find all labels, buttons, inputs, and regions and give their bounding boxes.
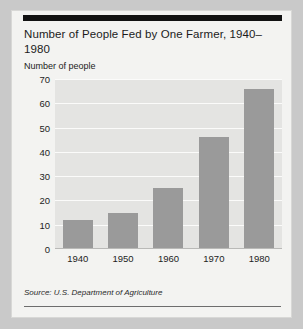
bar-1940[interactable]	[63, 220, 93, 249]
bottom-rule-divider	[24, 306, 281, 307]
x-axis-tick: 1970	[191, 253, 236, 264]
bar-slot	[237, 79, 282, 249]
chart-plot-wrapper: 70 60 50 40 30 20 10 0	[24, 79, 282, 275]
bar-1970[interactable]	[199, 137, 229, 249]
figure-card: Number of People Fed by One Farmer, 1940…	[11, 10, 292, 318]
bar-series	[55, 79, 282, 249]
x-axis-tick: 1980	[237, 253, 282, 264]
bar-1980[interactable]	[244, 89, 274, 249]
y-axis-tick: 60	[39, 98, 50, 109]
source-note: Source: U.S. Department of Agriculture	[24, 288, 162, 297]
bar-slot	[100, 79, 145, 249]
x-axis-baseline	[55, 248, 282, 249]
x-axis-tick-labels: 1940 1950 1960 1970 1980	[55, 253, 282, 264]
x-axis-tick: 1950	[100, 253, 145, 264]
bar-1950[interactable]	[108, 213, 138, 249]
y-axis-tick: 20	[39, 195, 50, 206]
y-axis-tick-labels: 70 60 50 40 30 20 10 0	[24, 79, 50, 249]
x-axis-tick: 1960	[146, 253, 191, 264]
y-axis-tick: 30	[39, 171, 50, 182]
y-axis-title: Number of people	[24, 61, 96, 71]
bar-slot	[191, 79, 236, 249]
y-axis-tick: 40	[39, 146, 50, 157]
y-axis-tick: 10	[39, 219, 50, 230]
top-rule-divider	[23, 15, 282, 21]
bar-slot	[55, 79, 100, 249]
y-axis-tick: 0	[45, 244, 50, 255]
bar-slot	[146, 79, 191, 249]
page-title: Number of People Fed by One Farmer, 1940…	[24, 27, 282, 56]
y-axis-tick: 50	[39, 122, 50, 133]
bar-1960[interactable]	[153, 188, 183, 249]
x-axis-tick: 1940	[55, 253, 100, 264]
y-axis-tick: 70	[39, 74, 50, 85]
plot-area	[55, 79, 282, 249]
